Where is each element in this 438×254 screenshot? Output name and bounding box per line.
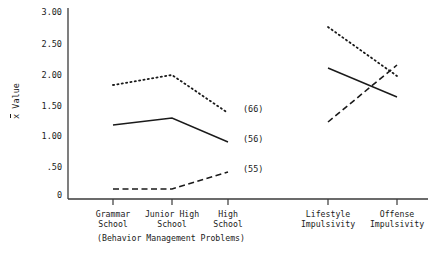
y-tick-label-3-00: 3.00 bbox=[22, 8, 62, 17]
series-label-55: (55) bbox=[243, 165, 263, 174]
series-55-left-line bbox=[113, 172, 228, 189]
y-axis-title: x Value bbox=[11, 71, 21, 131]
y-tick-label-2-50: 2.50 bbox=[22, 40, 62, 49]
series-label-66: (66) bbox=[243, 105, 263, 114]
series-56-left-line bbox=[113, 118, 228, 142]
chart-figure: x Value 3.00 2.50 2.00 1.50 1.00 .50 0 G… bbox=[0, 0, 438, 254]
series-56-right-line bbox=[328, 68, 397, 97]
x-category-offense-impulsivity-line2: Impulsivity bbox=[352, 219, 438, 229]
x-axis-ticks bbox=[113, 199, 397, 205]
x-axis-group-caption: (Behavior Management Problems) bbox=[56, 233, 286, 243]
x-category-high-school-line1: High bbox=[188, 209, 268, 219]
y-tick-label-2-00: 2.00 bbox=[22, 71, 62, 80]
y-tick-label-1-00: 1.00 bbox=[22, 132, 62, 141]
y-tick-label-1-50: 1.50 bbox=[22, 102, 62, 111]
y-axis-title-suffix: Value bbox=[11, 83, 21, 114]
y-tick-label-0-50: .50 bbox=[22, 163, 62, 172]
series-66-left-line bbox=[113, 75, 228, 113]
series-55-right-line bbox=[328, 65, 397, 122]
x-bar-glyph: x bbox=[11, 114, 21, 119]
series-66-right-line bbox=[328, 27, 397, 76]
series-label-56: (56) bbox=[243, 135, 263, 144]
x-category-offense-impulsivity-line1: Offense bbox=[352, 209, 438, 219]
x-category-high-school-line2: School bbox=[188, 219, 268, 229]
y-tick-label-0: 0 bbox=[22, 191, 62, 200]
